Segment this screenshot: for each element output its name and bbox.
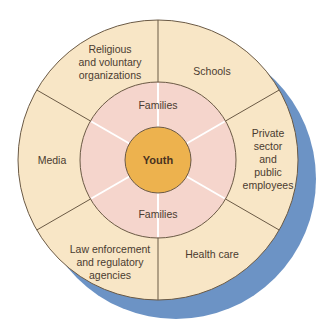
sector-label-line: organizations bbox=[79, 69, 141, 81]
center-label-youth: Youth bbox=[143, 154, 174, 166]
middle-label-families-top: Families bbox=[138, 99, 177, 111]
sector-label-line: Health care bbox=[185, 248, 239, 260]
sector-label-line: Media bbox=[38, 154, 67, 166]
sector-schools: Schools bbox=[193, 65, 230, 77]
sector-label-line: Law enforcement bbox=[70, 243, 151, 255]
sector-label-line: public bbox=[254, 166, 281, 178]
sector-label-line: and regulatory bbox=[76, 256, 144, 268]
sector-label-line: Religious bbox=[88, 43, 131, 55]
youth-support-diagram: Youth Families Families Religious and vo… bbox=[0, 0, 328, 336]
middle-label-families-bottom: Families bbox=[138, 208, 177, 220]
sector-label-line: Schools bbox=[193, 65, 230, 77]
sector-label-line: and voluntary bbox=[78, 56, 142, 68]
sector-label-line: and bbox=[259, 153, 277, 165]
sector-label-line: Private bbox=[252, 127, 285, 139]
sector-label-line: employees bbox=[243, 179, 294, 191]
sector-label-line: sector bbox=[254, 140, 283, 152]
sector-health-care: Health care bbox=[185, 248, 239, 260]
sector-label-line: agencies bbox=[89, 269, 131, 281]
sector-media: Media bbox=[38, 154, 67, 166]
